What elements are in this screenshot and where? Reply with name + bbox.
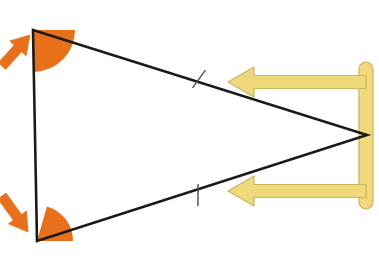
- diagram-canvas: [0, 0, 379, 268]
- geometry-diagram: [0, 0, 379, 268]
